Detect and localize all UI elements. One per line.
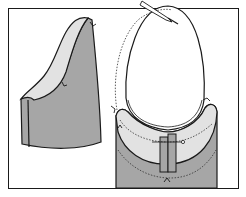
marker-dot: [181, 140, 184, 143]
sewing-diagram: [0, 0, 246, 197]
diagram-stage: Sewing illustration: hood/collar piece a…: [0, 0, 246, 197]
placket-right: [168, 134, 176, 172]
